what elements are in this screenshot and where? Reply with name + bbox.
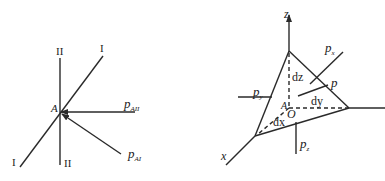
stress-pAI-arrow (62, 114, 121, 154)
origin-O-label: O (287, 107, 296, 121)
right-figure: z x dz dy dx A O p px py pz (220, 7, 385, 165)
stress-diagrams: II I I II A pAII pAI z x dz dy dx A (0, 0, 385, 181)
plane-I-bottom-label: I (12, 156, 16, 168)
p-label: p (330, 75, 338, 90)
pAII-label: pAII (123, 96, 140, 113)
x-axis-label: x (220, 149, 227, 163)
py-label: py (252, 84, 264, 101)
pAI-label: pAI (127, 146, 142, 163)
edge-front-right (255, 108, 349, 136)
dx-label: dx (273, 115, 285, 129)
px-line (310, 52, 343, 84)
px-label: px (324, 40, 336, 57)
dz-label: dz (292, 70, 303, 84)
plane-II-top-label: II (56, 45, 64, 57)
left-figure: II I I II A pAII pAI (12, 42, 142, 169)
pz-label: pz (299, 136, 310, 153)
x-axis (226, 136, 255, 165)
point-A-label: A (50, 102, 58, 114)
dy-label: dy (311, 94, 323, 108)
plane-I-top-label: I (100, 42, 104, 54)
plane-II-bottom-label: II (64, 157, 72, 169)
z-axis-label: z (283, 7, 289, 21)
